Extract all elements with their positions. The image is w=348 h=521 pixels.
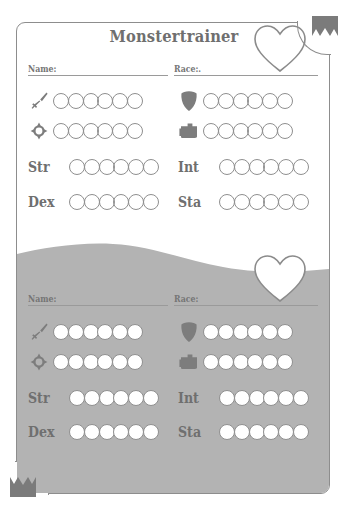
- pip[interactable]: [247, 93, 263, 109]
- pip[interactable]: [97, 123, 113, 139]
- pip[interactable]: [112, 324, 128, 340]
- pip[interactable]: [293, 159, 309, 175]
- pip[interactable]: [277, 123, 293, 139]
- pip[interactable]: [233, 354, 249, 370]
- pip[interactable]: [218, 354, 234, 370]
- pip[interactable]: [277, 354, 293, 370]
- pip[interactable]: [97, 93, 113, 109]
- pip[interactable]: [293, 390, 309, 406]
- pip[interactable]: [278, 159, 294, 175]
- pip[interactable]: [112, 93, 128, 109]
- race-field[interactable]: Race:.: [174, 57, 318, 76]
- pip[interactable]: [203, 123, 219, 139]
- pip[interactable]: [128, 159, 144, 175]
- pip[interactable]: [203, 324, 219, 340]
- pip[interactable]: [128, 424, 144, 440]
- pip[interactable]: [234, 159, 250, 175]
- pip[interactable]: [263, 159, 279, 175]
- pip[interactable]: [247, 324, 263, 340]
- pip[interactable]: [68, 354, 84, 370]
- pip[interactable]: [263, 390, 279, 406]
- pip[interactable]: [234, 424, 250, 440]
- pip[interactable]: [69, 159, 85, 175]
- pip[interactable]: [113, 390, 129, 406]
- pip[interactable]: [263, 424, 279, 440]
- pip[interactable]: [249, 194, 265, 210]
- pip[interactable]: [53, 324, 69, 340]
- pip[interactable]: [112, 354, 128, 370]
- pip[interactable]: [69, 390, 85, 406]
- pip[interactable]: [203, 93, 219, 109]
- pip[interactable]: [83, 93, 99, 109]
- pip[interactable]: [263, 194, 279, 210]
- name-field[interactable]: Name:: [28, 57, 168, 76]
- pip[interactable]: [113, 159, 129, 175]
- pip[interactable]: [262, 93, 278, 109]
- pip[interactable]: [249, 424, 265, 440]
- pip[interactable]: [293, 424, 309, 440]
- pip[interactable]: [278, 194, 294, 210]
- pip[interactable]: [233, 324, 249, 340]
- pip[interactable]: [262, 354, 278, 370]
- pip[interactable]: [143, 194, 159, 210]
- race-field[interactable]: Race:: [174, 287, 318, 306]
- pip[interactable]: [219, 424, 235, 440]
- pip[interactable]: [262, 123, 278, 139]
- name-field[interactable]: Name:: [28, 287, 168, 306]
- pip[interactable]: [97, 354, 113, 370]
- pip[interactable]: [83, 123, 99, 139]
- pip[interactable]: [68, 324, 84, 340]
- pip[interactable]: [53, 93, 69, 109]
- pip[interactable]: [53, 354, 69, 370]
- pip[interactable]: [247, 354, 263, 370]
- pip[interactable]: [68, 123, 84, 139]
- pip[interactable]: [143, 390, 159, 406]
- pip[interactable]: [128, 194, 144, 210]
- pip[interactable]: [233, 123, 249, 139]
- pip[interactable]: [234, 390, 250, 406]
- pip[interactable]: [249, 390, 265, 406]
- pip[interactable]: [277, 324, 293, 340]
- pip[interactable]: [69, 424, 85, 440]
- pip[interactable]: [97, 324, 113, 340]
- pip[interactable]: [99, 390, 115, 406]
- pip[interactable]: [219, 390, 235, 406]
- pip[interactable]: [113, 424, 129, 440]
- pip[interactable]: [112, 123, 128, 139]
- pip[interactable]: [84, 194, 100, 210]
- pip[interactable]: [84, 424, 100, 440]
- pip[interactable]: [83, 354, 99, 370]
- pip[interactable]: [84, 390, 100, 406]
- pip[interactable]: [247, 123, 263, 139]
- pip[interactable]: [218, 123, 234, 139]
- pip[interactable]: [113, 194, 129, 210]
- pip[interactable]: [278, 390, 294, 406]
- pip[interactable]: [277, 93, 293, 109]
- pip[interactable]: [68, 93, 84, 109]
- pip[interactable]: [127, 354, 143, 370]
- pip[interactable]: [127, 324, 143, 340]
- pip[interactable]: [219, 194, 235, 210]
- pip[interactable]: [69, 194, 85, 210]
- pip[interactable]: [127, 123, 143, 139]
- pip[interactable]: [143, 159, 159, 175]
- pip[interactable]: [99, 159, 115, 175]
- pip[interactable]: [127, 93, 143, 109]
- pip[interactable]: [219, 159, 235, 175]
- pip[interactable]: [278, 424, 294, 440]
- pip[interactable]: [99, 194, 115, 210]
- pip[interactable]: [233, 93, 249, 109]
- pip[interactable]: [99, 424, 115, 440]
- pip[interactable]: [84, 159, 100, 175]
- pip[interactable]: [234, 194, 250, 210]
- pip[interactable]: [262, 324, 278, 340]
- pip[interactable]: [128, 390, 144, 406]
- pip[interactable]: [83, 324, 99, 340]
- pip[interactable]: [218, 324, 234, 340]
- pip[interactable]: [249, 159, 265, 175]
- pip[interactable]: [203, 354, 219, 370]
- pip[interactable]: [293, 194, 309, 210]
- pip[interactable]: [143, 424, 159, 440]
- pip[interactable]: [218, 93, 234, 109]
- pip[interactable]: [53, 123, 69, 139]
